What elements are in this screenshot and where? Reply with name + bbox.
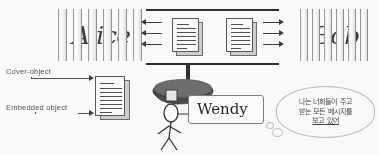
cover-object-leader-horizontal bbox=[31, 78, 90, 79]
sender-bars bbox=[56, 9, 146, 61]
cover-object-arrow-icon bbox=[89, 75, 94, 81]
sender-panel: Alice bbox=[56, 9, 146, 61]
channel-bottom-line bbox=[146, 63, 279, 65]
embedded-object-leader-vertical bbox=[35, 112, 36, 114]
embedded-object-label: Embedded object bbox=[6, 103, 67, 112]
channel-top-line bbox=[146, 9, 279, 11]
thought-line-3: 보고 있어 bbox=[276, 117, 375, 127]
thought-line-2: 받는 모든 메시지를 bbox=[276, 108, 375, 118]
thought-line-1: 나는 너희들이 주고 bbox=[276, 98, 375, 108]
embedded-object-arrow-icon bbox=[89, 110, 94, 116]
steganography-diagram: Alice Bob bbox=[0, 0, 379, 154]
eavesdropper-name: Wendy bbox=[197, 100, 248, 118]
receiver-bars bbox=[299, 9, 373, 61]
receiver-panel: Bob bbox=[299, 9, 373, 61]
cover-object-label: Cover-object bbox=[6, 67, 51, 76]
